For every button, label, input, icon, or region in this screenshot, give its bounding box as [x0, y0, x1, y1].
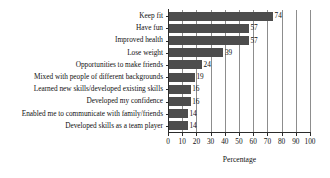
- y-axis-tick: [166, 102, 169, 103]
- plot-area: 74575739241916161414: [168, 10, 310, 132]
- y-axis-tick: [166, 53, 169, 54]
- x-axis-tick: [211, 133, 212, 136]
- bar-value-label: 16: [192, 96, 199, 108]
- bar-series: 74575739241916161414: [168, 10, 310, 132]
- y-axis-tick: [166, 41, 169, 42]
- x-axis-tick-label: 40: [221, 137, 228, 147]
- x-axis-tick-label: 60: [250, 137, 257, 147]
- y-axis-tick: [166, 77, 169, 78]
- x-axis-tick: [182, 133, 183, 136]
- x-axis-tick-label: 90: [292, 137, 299, 147]
- bar-row: 19: [168, 71, 310, 83]
- bar: [168, 97, 191, 106]
- bar-row: 39: [168, 47, 310, 59]
- x-axis-tick-label: 50: [235, 137, 242, 147]
- bar-value-label: 24: [204, 59, 211, 71]
- x-axis-tick-label: 30: [207, 137, 214, 147]
- x-axis-tick: [310, 133, 311, 136]
- x-axis-tick-label: 0: [166, 137, 170, 147]
- x-axis-tick-label: 10: [179, 137, 186, 147]
- category-label: Opportunities to make friends: [76, 59, 163, 71]
- x-axis-tick: [239, 133, 240, 136]
- category-label: Keep fit: [139, 10, 163, 22]
- bar: [168, 24, 249, 33]
- bar-value-label: 19: [196, 71, 203, 83]
- bar: [168, 73, 195, 82]
- x-axis-tick-label: 100: [305, 137, 316, 147]
- x-axis-tick: [282, 133, 283, 136]
- y-axis-tick: [166, 65, 169, 66]
- x-axis-tick: [168, 133, 169, 136]
- bar-value-label: 14: [189, 120, 196, 132]
- x-axis-tick: [267, 133, 268, 136]
- horizontal-bar-chart: Keep fitHave funImproved healthLose weig…: [0, 0, 330, 178]
- y-axis-tick: [166, 28, 169, 29]
- category-label: Developed skills as a team player: [65, 120, 163, 132]
- bar-row: 14: [168, 108, 310, 120]
- bar-value-label: 14: [189, 108, 196, 120]
- bar: [168, 48, 223, 57]
- x-axis-tick-labels: 0102030405060708090100: [168, 137, 311, 149]
- bar: [168, 109, 188, 118]
- bar-row: 16: [168, 83, 310, 95]
- bar: [168, 36, 249, 45]
- bar-value-label: 74: [275, 10, 282, 22]
- y-axis-line: [168, 9, 169, 133]
- x-axis-tick-label: 80: [278, 137, 285, 147]
- bar-row: 14: [168, 120, 310, 132]
- x-axis-tick-label: 20: [193, 137, 200, 147]
- y-axis-tick: [166, 114, 169, 115]
- bar: [168, 12, 273, 21]
- bar: [168, 121, 188, 130]
- bar-row: 24: [168, 59, 310, 71]
- category-label: Developed my confidence: [86, 95, 163, 107]
- category-label: Have fun: [136, 22, 163, 34]
- x-axis-line: [168, 132, 311, 133]
- y-axis-tick: [166, 89, 169, 90]
- y-axis-tick: [166, 16, 169, 17]
- x-axis-tick: [296, 133, 297, 136]
- category-label: Learned new skills/developed existing sk…: [34, 83, 163, 95]
- category-label: Mixed with people of different backgroun…: [34, 71, 163, 83]
- x-axis-tick: [196, 133, 197, 136]
- bar-row: 57: [168, 34, 310, 46]
- x-axis-tick-label: 70: [264, 137, 271, 147]
- bar-row: 16: [168, 95, 310, 107]
- x-axis-tick: [225, 133, 226, 136]
- bar-value-label: 39: [225, 47, 232, 59]
- category-label: Lose weight: [127, 47, 163, 59]
- x-axis-title: Percentage: [168, 155, 311, 164]
- x-axis-tick: [253, 133, 254, 136]
- bar: [168, 85, 191, 94]
- bar-row: 57: [168, 22, 310, 34]
- gridline-100: [310, 10, 311, 132]
- category-axis-labels: Keep fitHave funImproved healthLose weig…: [0, 10, 166, 132]
- bar-value-label: 57: [250, 35, 257, 47]
- category-label: Enabled me to communicate with family/fr…: [22, 108, 163, 120]
- bar-value-label: 16: [192, 83, 199, 95]
- bar-value-label: 57: [250, 22, 257, 34]
- bar-row: 74: [168, 10, 310, 22]
- y-axis-tick: [166, 126, 169, 127]
- category-label: Improved health: [115, 34, 163, 46]
- bar: [168, 60, 202, 69]
